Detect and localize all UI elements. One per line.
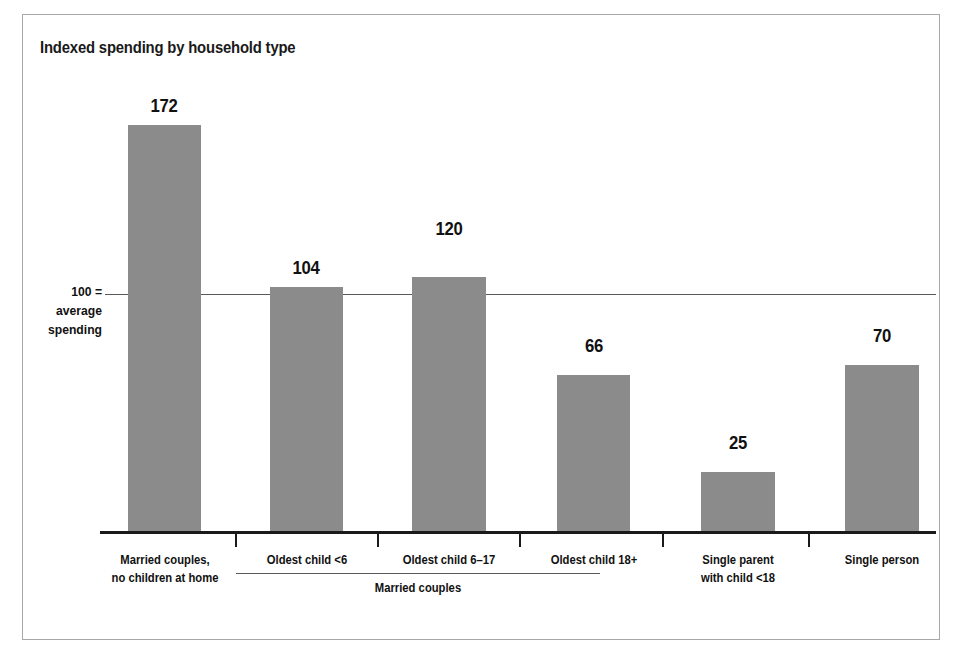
bar-oldest-child-6-17[interactable] (412, 277, 486, 532)
category-label-4-line-1: Single parent (656, 551, 820, 569)
figure-container: Indexed spending by household type 100 =… (0, 0, 963, 664)
group-bracket-line (236, 573, 600, 574)
axis-tick-4 (662, 534, 664, 547)
category-label-2: Oldest child 6–17 (367, 551, 531, 569)
bar-value-0: 172 (120, 95, 208, 117)
bar-oldest-child-18-plus[interactable] (557, 375, 630, 532)
category-label-3-line-1: Oldest child 18+ (512, 551, 676, 569)
axis-tick-5 (808, 534, 810, 547)
category-label-0: Married couples, no children at home (83, 551, 247, 587)
category-label-2-line-1: Oldest child 6–17 (367, 551, 531, 569)
category-label-1: Oldest child <6 (225, 551, 389, 569)
bar-value-2: 120 (405, 218, 493, 240)
bar-value-4: 25 (694, 432, 782, 454)
bar-single-parent-child-under-18[interactable] (701, 472, 775, 532)
axis-tick-3 (519, 534, 521, 547)
category-label-4-line-2: with child <18 (656, 569, 820, 587)
reference-label-line-3: spending (43, 320, 102, 339)
group-bracket-label: Married couples (254, 581, 582, 595)
plot-area: 100 = average spending 172 104 120 66 25… (0, 0, 963, 664)
category-label-5: Single person (800, 551, 963, 569)
axis-tick-1 (235, 534, 237, 547)
bar-value-3: 66 (550, 335, 638, 357)
bar-value-5: 70 (838, 325, 926, 347)
category-label-3: Oldest child 18+ (512, 551, 676, 569)
bar-value-1: 104 (262, 257, 350, 279)
axis-tick-2 (377, 534, 379, 547)
x-axis-baseline (100, 531, 936, 534)
reference-label-line-1: 100 = (43, 282, 102, 301)
reference-line-100 (105, 294, 936, 295)
category-label-0-line-2: no children at home (83, 569, 247, 587)
bar-married-no-children[interactable] (128, 125, 201, 532)
reference-line-label: 100 = average spending (43, 282, 102, 339)
category-label-5-line-1: Single person (800, 551, 963, 569)
bar-oldest-child-under-6[interactable] (270, 287, 343, 532)
category-label-1-line-1: Oldest child <6 (225, 551, 389, 569)
bar-single-person[interactable] (845, 365, 919, 532)
reference-label-line-2: average (43, 301, 102, 320)
category-label-4: Single parent with child <18 (656, 551, 820, 587)
category-label-0-line-1: Married couples, (83, 551, 247, 569)
